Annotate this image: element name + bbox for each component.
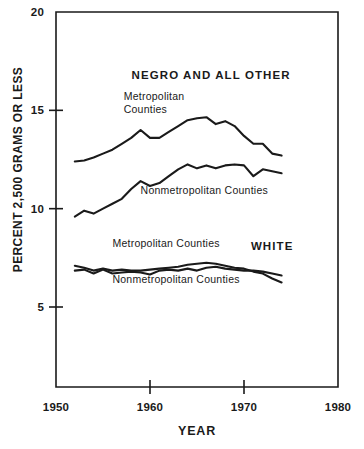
series-line-0 bbox=[75, 117, 282, 161]
chart-series bbox=[75, 117, 282, 282]
line-chart: 51015201950196019701980YEARPERCENT 2,500… bbox=[0, 0, 364, 449]
annotation-negro-and-all-other: NEGRO AND ALL OTHER bbox=[132, 69, 291, 81]
series-label-0-line-1: Counties bbox=[124, 103, 167, 115]
chart-labels: MetropolitanCountiesNonmetropolitan Coun… bbox=[112, 69, 293, 286]
chart-figure: 51015201950196019701980YEARPERCENT 2,500… bbox=[0, 0, 364, 449]
x-axis-title: YEAR bbox=[178, 424, 216, 438]
y-tick-label-20: 20 bbox=[31, 6, 44, 18]
y-tick-label-5: 5 bbox=[37, 301, 44, 313]
series-label-0-line-0: Metropolitan bbox=[124, 90, 185, 102]
annotation-white: WHITE bbox=[251, 240, 294, 252]
x-tick-label-1950: 1950 bbox=[43, 401, 69, 413]
y-tick-label-15: 15 bbox=[31, 104, 45, 116]
x-tick-label-1980: 1980 bbox=[325, 401, 351, 413]
y-tick-label-10: 10 bbox=[31, 203, 44, 215]
x-tick-label-1960: 1960 bbox=[137, 401, 163, 413]
series-label-3-line-0: Nonmetropolitan Counties bbox=[112, 273, 239, 285]
y-axis-title: PERCENT 2,500 GRAMS OR LESS bbox=[11, 67, 25, 273]
series-label-2-line-0: Metropolitan Counties bbox=[112, 237, 219, 249]
x-tick-label-1970: 1970 bbox=[231, 401, 257, 413]
series-label-1-line-0: Nonmetropolitan Counties bbox=[141, 184, 268, 196]
